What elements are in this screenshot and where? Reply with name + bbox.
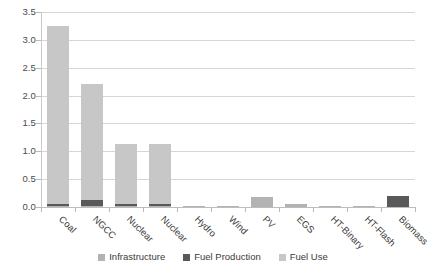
x-axis-tick [245,207,246,212]
legend-label: Fuel Use [290,252,328,262]
y-axis-labels: 0.00.51.01.52.02.53.03.5 [0,0,36,220]
x-axis-tick [347,207,348,212]
x-axis-tick [177,207,178,212]
bar-group [381,12,415,207]
bar-stack[interactable] [387,196,409,207]
y-axis-tick-label: 3.5 [2,7,36,17]
plot-bars [41,12,415,207]
bar-group [41,12,75,207]
bar-group [211,12,245,207]
chart-legend: InfrastructureFuel ProductionFuel Use [0,252,426,262]
legend-label: Fuel Production [194,252,261,262]
bar-segment [81,200,103,207]
bar-stack[interactable] [115,144,137,207]
x-axis-tick [109,207,110,212]
x-axis-tick [211,207,212,212]
legend-swatch [98,254,105,261]
category-label: HT-Binary [329,214,366,251]
category-label: Biomass [397,214,430,247]
bar-group [347,12,381,207]
y-axis-tick-label: 2.0 [2,91,36,101]
category-label: NGCC [91,214,118,241]
legend-item[interactable]: Fuel Use [279,252,328,262]
bar-group [75,12,109,207]
legend-swatch [183,254,190,261]
category-label: EGS [295,214,316,235]
bar-segment [81,84,103,199]
category-label: Coal [57,214,78,235]
category-label: Wind [227,214,249,236]
bar-segment [115,144,137,204]
y-axis-tick-label: 1.0 [2,146,36,156]
y-axis-tick-label: 0.5 [2,174,36,184]
x-axis-tick [143,207,144,212]
bar-segment [149,144,171,204]
bar-group [109,12,143,207]
x-axis-tick [279,207,280,212]
legend-label: Infrastructure [109,252,165,262]
y-axis-tick-label: 0.0 [2,202,36,212]
bar-group [143,12,177,207]
x-axis-line [41,207,415,208]
bar-stack[interactable] [149,144,171,207]
x-axis-tick [313,207,314,212]
category-label: HT-Flash [363,214,397,248]
bar-segment [387,196,409,207]
y-axis-tick-label: 3.0 [2,35,36,45]
category-label: Hydro [193,214,218,239]
bar-group [177,12,211,207]
bar-group [279,12,313,207]
bar-stack[interactable] [81,84,103,207]
legend-swatch [279,254,286,261]
y-axis-tick-label: 1.5 [2,118,36,128]
bar-stack[interactable] [251,197,273,207]
legend-item[interactable]: Infrastructure [98,252,165,262]
bar-stack[interactable] [47,26,69,207]
x-axis-tick [41,207,42,212]
bar-segment [251,197,273,207]
bar-group [313,12,347,207]
x-axis-tick [415,207,416,212]
legend-item[interactable]: Fuel Production [183,252,261,262]
y-axis-tick-label: 2.5 [2,63,36,73]
category-label: Nuclear [125,214,155,244]
x-axis-tick [75,207,76,212]
category-label: Nuclear [159,214,189,244]
bar-segment [47,26,69,204]
category-label: PV [261,214,277,230]
x-axis-tick [381,207,382,212]
bar-group [245,12,279,207]
